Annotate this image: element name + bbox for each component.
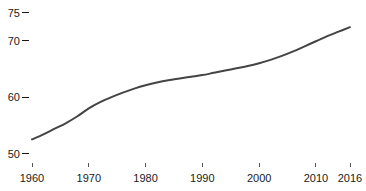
x-tick-label: 1970	[77, 172, 101, 184]
x-tick-label: 1980	[133, 172, 157, 184]
x-tick-label: 2016	[338, 172, 362, 184]
y-tick-label: 70	[8, 35, 20, 47]
line-chart: 50607075 1960197019801990200020102016	[0, 0, 366, 191]
y-tick-label: 50	[8, 148, 20, 160]
chart-background	[0, 0, 366, 191]
x-tick-label: 1960	[20, 172, 44, 184]
x-tick-label: 2000	[247, 172, 271, 184]
x-tick-label: 2010	[304, 172, 328, 184]
y-tick-label: 75	[8, 7, 20, 19]
chart-canvas: 50607075 1960197019801990200020102016	[0, 0, 366, 191]
x-tick-label: 1990	[190, 172, 214, 184]
y-tick-label: 60	[8, 91, 20, 103]
